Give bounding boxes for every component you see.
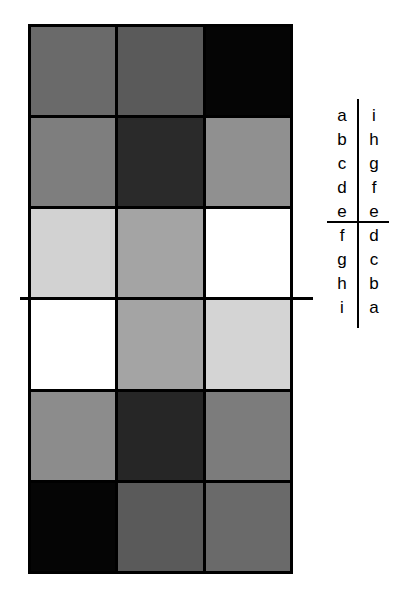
mapping-table-left-column: a b c d e f g h i [332,104,352,320]
mapping-left-label: b [332,128,352,152]
grid-cell-r3c3 [206,209,290,297]
grid-cell-r6c1 [31,483,115,571]
grid-cell-r6c3 [206,483,290,571]
mapping-left-label: g [332,248,352,272]
mapping-right-label: h [364,128,384,152]
grid-cell-r4c1 [31,300,115,388]
mapping-right-label: a [364,296,384,320]
mapping-left-label: d [332,176,352,200]
grid-cell-r3c1 [31,209,115,297]
grid-cell-r6c2 [118,483,202,571]
grid-cell-r5c3 [206,392,290,480]
mapping-table-right-column: i h g f e d c b a [364,104,384,320]
grid-cell-r1c3 [206,27,290,115]
mapping-right-label: e [364,200,384,224]
grid-cell-r1c2 [118,27,202,115]
mapping-left-label: i [332,296,352,320]
grid-cell-r2c3 [206,118,290,206]
mapping-right-label: i [364,104,384,128]
mapping-right-label: d [364,224,384,248]
grid-cell-r1c1 [31,27,115,115]
grid-cell-r3c2 [118,209,202,297]
mapping-right-label: b [364,272,384,296]
mapping-right-label: g [364,152,384,176]
grid-cell-r5c2 [118,392,202,480]
grid-cell-r5c1 [31,392,115,480]
mapping-left-label: c [332,152,352,176]
grid-cell-r4c2 [118,300,202,388]
grid-cell-r2c2 [118,118,202,206]
mapping-left-label: e [332,200,352,224]
horizontal-symmetry-line [20,297,313,300]
mapping-left-label: h [332,272,352,296]
mapping-left-label: f [332,224,352,248]
grid-cell-r4c3 [206,300,290,388]
mapping-left-label: a [332,104,352,128]
mapping-right-label: c [364,248,384,272]
mapping-table-vertical-divider [357,99,359,328]
grid-cell-r2c1 [31,118,115,206]
mapping-right-label: f [364,176,384,200]
